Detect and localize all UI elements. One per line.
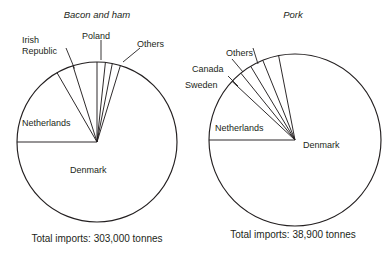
pie-chart-figure: Bacon and ham Irish Republic Poland Oth <box>0 0 387 257</box>
left-callout-poland: Poland <box>82 31 110 41</box>
left-slice-boundary-others-c <box>97 64 112 143</box>
left-total-imports: Total imports: 303,000 tonnes <box>31 233 162 244</box>
right-callout-sweden: Sweden <box>185 80 218 90</box>
left-slice-boundary-netherlands-irish <box>57 73 97 142</box>
right-callout-others: Others <box>226 48 254 58</box>
right-pie-group: Pork Others Canada Sweden Netherlands D <box>185 9 381 240</box>
right-slice-boundary-others-b <box>263 60 295 140</box>
left-slice-boundary-others-b <box>97 62 105 142</box>
figure-svg: Bacon and ham Irish Republic Poland Oth <box>0 0 387 257</box>
left-callout-irish-line1: Irish <box>22 35 39 45</box>
right-leader-canada <box>232 59 243 72</box>
right-callout-canada: Canada <box>192 64 224 74</box>
left-slice-boundary-irish-poland <box>73 66 97 142</box>
left-slice-boundary-others-d <box>97 66 120 143</box>
left-callout-others: Others <box>137 39 165 49</box>
right-leader-others <box>253 48 258 64</box>
left-label-netherlands: Netherlands <box>22 118 71 128</box>
left-pie-group: Bacon and ham Irish Republic Poland Oth <box>17 9 177 244</box>
left-leader-irish <box>66 48 75 69</box>
left-chart-title: Bacon and ham <box>64 9 131 20</box>
left-leader-others <box>123 48 140 62</box>
right-chart-title: Pork <box>283 9 304 20</box>
right-label-denmark: Denmark <box>303 140 340 150</box>
right-total-imports: Total imports: 38,900 tonnes <box>230 229 356 240</box>
left-label-denmark: Denmark <box>70 165 107 175</box>
left-callout-irish-line2: Republic <box>22 46 58 56</box>
right-label-netherlands: Netherlands <box>215 123 264 133</box>
